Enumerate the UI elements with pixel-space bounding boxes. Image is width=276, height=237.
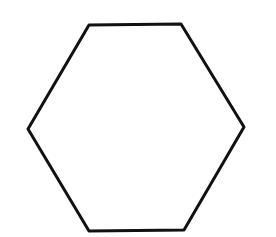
hexagon-shape (28, 24, 244, 231)
diagram-canvas (0, 0, 276, 237)
